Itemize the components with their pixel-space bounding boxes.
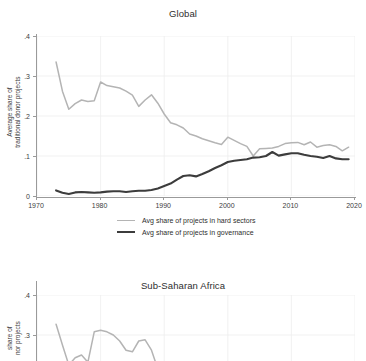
y-tick-mark [33,295,36,296]
plot-area-ssa [37,295,355,361]
x-tick-label: 1990 [148,202,178,209]
y-tick-label: 0 [14,193,30,200]
plot-area-global [37,36,355,196]
legend-item-hard-sectors: Avg share of projects in hard sectors [0,214,366,226]
y-tick-label: .3 [14,332,30,339]
panel-title-ssa: Sub-Saharan Africa [0,280,366,291]
x-tick-label: 1970 [21,202,51,209]
x-tick-mark [36,197,37,200]
x-tick-label: 2010 [275,202,305,209]
y-tick-label: .4 [14,33,30,40]
y-tick-mark [33,36,36,37]
y-tick-mark [33,156,36,157]
x-tick-mark [163,197,164,200]
panel-title-global: Global [0,8,366,19]
chart-svg-ssa [37,295,355,361]
chart-svg-global [37,36,355,196]
legend-swatch-governance-icon [117,231,135,233]
y-tick-mark [33,76,36,77]
legend-swatch-hard-sectors-icon [117,220,135,221]
y-tick-label: .2 [14,113,30,120]
y-axis-label-ssa-line1: share of [6,326,13,350]
y-axis-label-ssa: share of nor projects [6,288,22,361]
x-tick-label: 2000 [212,202,242,209]
legend-item-governance: Avg share of projects in governance [0,226,366,238]
y-tick-mark [33,335,36,336]
series-line-governance [56,152,349,194]
y-tick-mark [33,116,36,117]
y-tick-label: .3 [14,73,30,80]
y-tick-label: .4 [14,292,30,299]
x-tick-mark [354,197,355,200]
x-tick-mark [290,197,291,200]
y-tick-label: .1 [14,153,30,160]
x-tick-label: 2020 [339,202,366,209]
y-axis-line-ssa [36,281,37,361]
y-axis-line-global [36,34,37,198]
x-axis-line-global [36,197,356,198]
legend-label-hard-sectors: Avg share of projects in hard sectors [142,217,255,224]
legend-label-governance: Avg share of projects in governance [142,229,254,236]
x-tick-mark [100,197,101,200]
x-tick-mark [227,197,228,200]
panel-global: Global Average share of traditional dono… [0,0,366,250]
figure-root: Global Average share of traditional dono… [0,0,366,361]
chart-legend: Avg share of projects in hard sectors Av… [0,214,366,238]
x-tick-label: 1980 [85,202,115,209]
panel-sub-saharan-africa: Sub-Saharan Africa share of nor projects… [0,250,366,361]
y-axis-label-line1: Average share of [6,87,13,136]
series-line-hard-sectors [56,324,158,361]
